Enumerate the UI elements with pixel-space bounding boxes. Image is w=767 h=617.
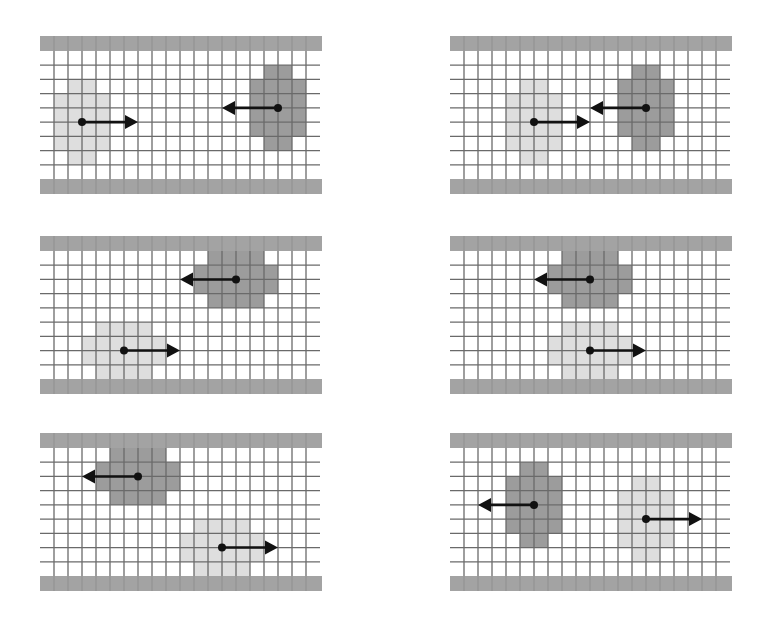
panel-3 (40, 236, 322, 394)
collision-sequence-diagram (0, 0, 767, 617)
center-dot (78, 118, 86, 126)
panel-6 (450, 433, 732, 591)
grid-lines (40, 447, 320, 577)
center-dot (530, 501, 538, 509)
center-dot (218, 544, 226, 552)
center-dot (120, 347, 128, 355)
grid-lines (40, 250, 320, 380)
grid-lines (450, 250, 730, 380)
panel-2 (450, 36, 732, 194)
grid-lines (450, 447, 730, 577)
panel-5 (40, 433, 322, 591)
center-dot (530, 118, 538, 126)
center-dot (274, 104, 282, 112)
center-dot (642, 104, 650, 112)
center-dot (586, 347, 594, 355)
center-dot (642, 515, 650, 523)
grid-lines (450, 50, 730, 180)
center-dot (134, 472, 142, 480)
panel-4 (450, 236, 732, 394)
center-dot (586, 275, 594, 283)
grid-lines (40, 50, 320, 180)
panel-1 (40, 36, 322, 194)
center-dot (232, 275, 240, 283)
diagram-canvas (0, 0, 767, 617)
